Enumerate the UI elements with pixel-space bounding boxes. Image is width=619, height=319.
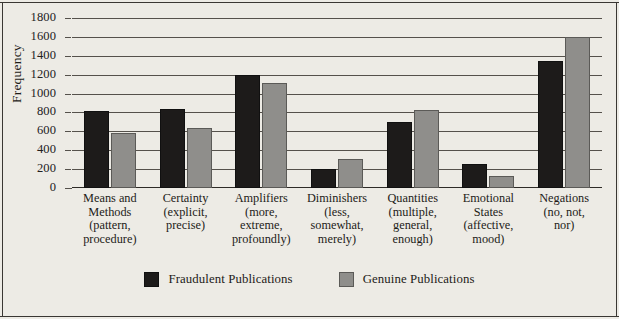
legend-color-swatch <box>144 272 159 287</box>
x-axis-category-label: Certainty(explicit,precise) <box>148 192 224 233</box>
legend-color-swatch <box>339 272 354 287</box>
bar <box>338 159 363 188</box>
y-axis-tick-label: 600 <box>37 124 56 139</box>
x-axis-category-label-line: (pattern, <box>72 219 148 233</box>
y-axis-tick-label: 800 <box>37 105 56 120</box>
x-axis-category-label-line: Methods <box>72 206 148 220</box>
x-axis-category-label-line: (affective, <box>451 219 527 233</box>
legend-label: Genuine Publications <box>363 272 475 287</box>
figure-border-right <box>616 2 617 317</box>
x-axis-category-label-line: merely) <box>299 233 375 247</box>
bar <box>311 169 336 188</box>
y-axis-tick-label: 400 <box>37 142 56 157</box>
x-axis-category-label-line: (more, <box>223 206 299 220</box>
x-axis-category-label: Amplifiers(more,extreme,profoundly) <box>223 192 299 246</box>
x-axis-category-labels: Means andMethods(pattern,procedure)Certa… <box>72 192 602 264</box>
bar <box>414 110 439 188</box>
x-axis-category-label-line: States <box>451 206 527 220</box>
figure-border-top <box>0 2 619 3</box>
bar-group <box>451 18 527 188</box>
legend-label: Fraudulent Publications <box>168 272 292 287</box>
x-axis-category-label-line: Quantities <box>375 192 451 206</box>
x-axis-category-label-line: (no, not, <box>526 206 602 220</box>
y-axis-tick-label: 1800 <box>31 10 56 25</box>
x-axis-category-label: Diminishers(less,somewhat,merely) <box>299 192 375 246</box>
x-axis-category-label-line: precise) <box>148 219 224 233</box>
bar <box>235 75 260 188</box>
y-axis-tick-label: 1600 <box>31 29 56 44</box>
bar <box>538 61 563 188</box>
bar <box>489 176 514 188</box>
x-axis-category-label-line: Certainty <box>148 192 224 206</box>
figure-border-left <box>2 2 3 317</box>
y-axis-tick: 0 <box>65 188 72 189</box>
x-axis-category-label-line: profoundly) <box>223 233 299 247</box>
bar <box>84 111 109 188</box>
x-axis-category-label-line: Emotional <box>451 192 527 206</box>
bar <box>111 133 136 188</box>
bar <box>462 164 487 188</box>
x-axis-category-label-line: (less, <box>299 206 375 220</box>
bar <box>387 122 412 188</box>
y-axis-title: Frequency <box>9 44 25 103</box>
x-axis-category-label: EmotionalStates(affective,mood) <box>451 192 527 246</box>
bar-group <box>299 18 375 188</box>
x-axis-category-label-line: general, <box>375 219 451 233</box>
y-axis-tick-label: 0 <box>50 180 56 195</box>
x-axis-category-label-line: Means and <box>72 192 148 206</box>
y-axis-tick-label: 1200 <box>31 67 56 82</box>
x-axis-category-label-line: somewhat, <box>299 219 375 233</box>
bar-chart-figure: Frequency 180016001400120010008006004002… <box>0 0 619 319</box>
x-axis-category-label-line: extreme, <box>223 219 299 233</box>
bar-group <box>526 18 602 188</box>
bar <box>565 37 590 188</box>
figure-border-bottom <box>0 316 619 317</box>
bar <box>187 128 212 188</box>
bar-group <box>223 18 299 188</box>
plot-area: 180016001400120010008006004002000 <box>72 18 602 188</box>
bar-group <box>375 18 451 188</box>
chart-legend: Fraudulent PublicationsGenuine Publicati… <box>0 272 619 287</box>
x-axis-category-label-line: Negations <box>526 192 602 206</box>
bar-group <box>148 18 224 188</box>
x-axis-category-label-line: (explicit, <box>148 206 224 220</box>
x-axis-category-label: Negations(no, not,nor) <box>526 192 602 233</box>
x-axis-category-label-line: (multiple, <box>375 206 451 220</box>
y-axis-tick-label: 1000 <box>31 86 56 101</box>
y-axis-tick-label: 200 <box>37 161 56 176</box>
legend-item: Fraudulent Publications <box>144 272 292 287</box>
bar <box>262 83 287 188</box>
x-axis-category-label-line: nor) <box>526 219 602 233</box>
y-axis-tick-label: 1400 <box>31 48 56 63</box>
legend-item: Genuine Publications <box>339 272 475 287</box>
bar <box>160 109 185 188</box>
x-axis-category-label-line: procedure) <box>72 233 148 247</box>
x-axis-category-label-line: enough) <box>375 233 451 247</box>
x-axis-category-label-line: mood) <box>451 233 527 247</box>
x-axis-category-label-line: Amplifiers <box>223 192 299 206</box>
x-axis-category-label: Means andMethods(pattern,procedure) <box>72 192 148 246</box>
x-axis-category-label: Quantities(multiple,general,enough) <box>375 192 451 246</box>
bar-group <box>72 18 148 188</box>
x-axis-category-label-line: Diminishers <box>299 192 375 206</box>
